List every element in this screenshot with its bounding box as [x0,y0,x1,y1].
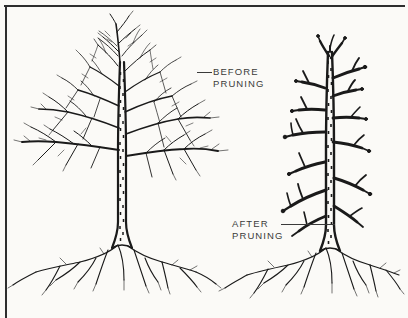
before-label-line2: PRUNING [213,78,265,89]
before-tree-graphic [8,11,228,295]
after-leader-line [281,224,335,225]
after-pruning-label: AFTERPRUNING [232,218,284,241]
after-label-line1: AFTER [232,218,269,229]
after-label-line2: PRUNING [232,230,284,241]
before-label-line1: BEFORE [213,66,259,77]
before-pruning-label: BEFOREPRUNING [213,66,265,89]
pruning-illustration [0,0,408,318]
before-leader-line [197,72,212,73]
diagram-sheet: BEFOREPRUNING AFTERPRUNING [0,0,408,318]
